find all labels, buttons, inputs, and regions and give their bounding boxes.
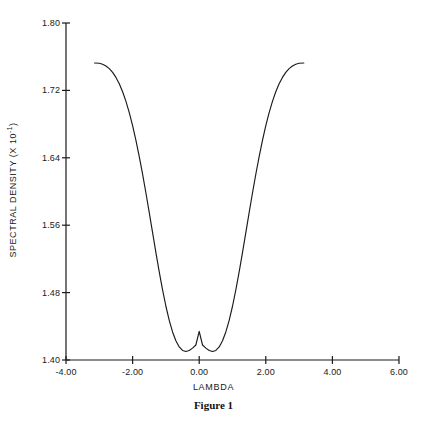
x-axis-tick-label: -4.00 bbox=[55, 367, 76, 377]
y-axis-title-text: SPECTRAL DENSITY (X 10 bbox=[8, 133, 18, 258]
x-axis-tick-label: 0.00 bbox=[190, 367, 208, 377]
x-axis-tick-label: 2.00 bbox=[257, 367, 275, 377]
y-axis-tick-label: 1.56 bbox=[28, 220, 60, 230]
y-axis-title: SPECTRAL DENSITY (X 10-1) bbox=[8, 122, 18, 257]
figure-container: 1.401.481.561.641.721.80 -4.00-2.000.002… bbox=[0, 0, 427, 422]
x-axis-tick-label: -2.00 bbox=[122, 367, 143, 377]
y-axis-title-suffix: ) bbox=[8, 122, 18, 126]
y-axis-title-exponent: -1 bbox=[6, 126, 13, 133]
x-axis-tick-label: 4.00 bbox=[323, 367, 341, 377]
y-axis-tick-label: 1.40 bbox=[28, 355, 60, 365]
x-axis-title: LAMBDA bbox=[0, 382, 427, 392]
spectral-density-plot bbox=[0, 0, 427, 422]
spectral-density-curve bbox=[95, 63, 304, 352]
y-axis-tick-label: 1.80 bbox=[28, 18, 60, 28]
y-axis-tick-label: 1.64 bbox=[28, 153, 60, 163]
figure-caption: Figure 1 bbox=[0, 399, 427, 411]
y-axis-tick-label: 1.72 bbox=[28, 85, 60, 95]
x-axis-tick-label: 6.00 bbox=[390, 367, 408, 377]
y-axis-tick-label: 1.48 bbox=[28, 288, 60, 298]
